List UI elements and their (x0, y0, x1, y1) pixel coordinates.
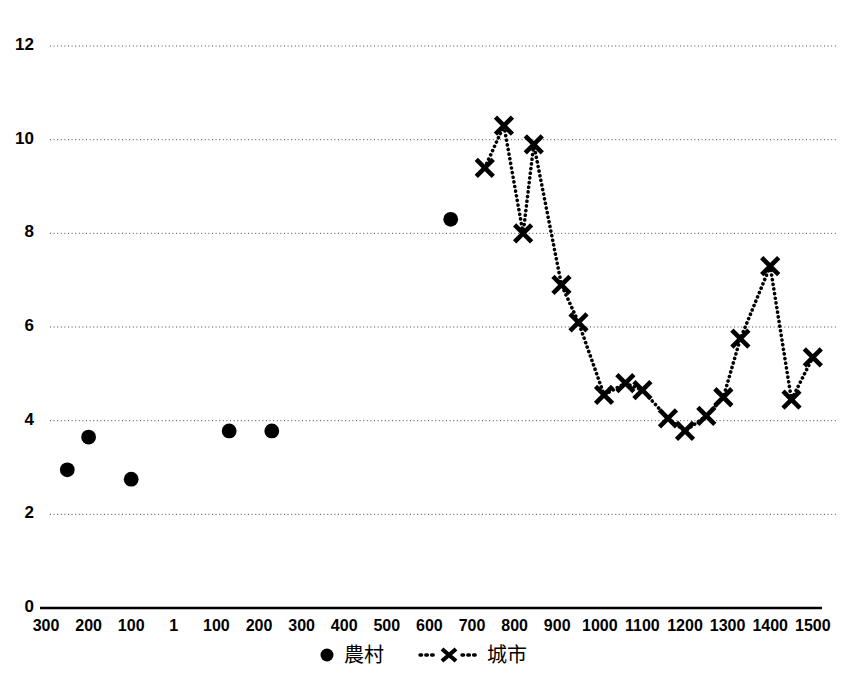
urban-data-point (804, 349, 821, 366)
urban-data-point (698, 407, 715, 424)
chart-plot-area (0, 0, 844, 677)
urban-data-point (677, 422, 694, 439)
urban-data-point (732, 330, 749, 347)
x-cross-dotted-icon (418, 645, 480, 665)
rural-data-point (443, 212, 458, 227)
chart-legend: 農村 城市 (0, 645, 844, 665)
rural-series-markers (60, 212, 458, 487)
y-tick-label: 0 (0, 597, 34, 617)
urban-data-point (783, 391, 800, 408)
y-tick-label: 6 (0, 316, 34, 336)
urban-data-point (634, 382, 651, 399)
urban-series-markers (476, 117, 821, 439)
rural-data-point (60, 462, 75, 477)
urban-data-point (659, 410, 676, 427)
gridlines (50, 46, 838, 514)
urban-data-point (570, 314, 587, 331)
urban-data-point (617, 375, 634, 392)
filled-circle-icon (317, 645, 337, 665)
rural-data-point (81, 430, 96, 445)
rural-data-point (222, 424, 237, 439)
legend-item-urban: 城市 (418, 645, 527, 665)
rural-data-point (124, 472, 139, 487)
y-tick-label: 12 (0, 35, 34, 55)
urban-data-point (715, 389, 732, 406)
x-tick-label: 1500 (788, 617, 838, 635)
y-tick-label: 10 (0, 129, 34, 149)
legend-item-rural: 農村 (317, 645, 384, 665)
urban-data-point (476, 159, 493, 176)
urban-data-point (596, 386, 613, 403)
urban-data-point (553, 276, 570, 293)
chart-container: 024681012 300200100110020030040050060070… (0, 0, 844, 677)
rural-data-point (264, 424, 279, 439)
legend-label-urban: 城市 (487, 645, 527, 665)
y-tick-label: 4 (0, 410, 34, 430)
y-tick-label: 2 (0, 503, 34, 523)
y-tick-label: 8 (0, 222, 34, 242)
legend-label-rural: 農村 (344, 645, 384, 665)
